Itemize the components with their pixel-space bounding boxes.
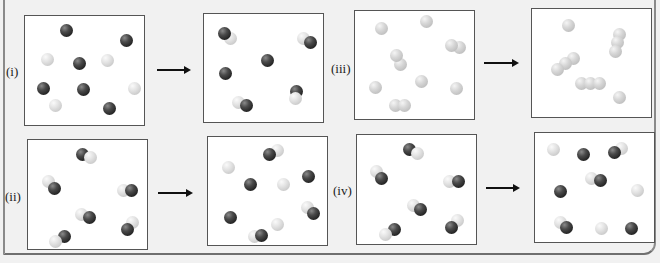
grey-atom — [375, 22, 388, 35]
grey-atom — [613, 91, 626, 104]
dark-atom — [625, 222, 638, 235]
light-atom — [277, 178, 290, 191]
light-atom — [547, 143, 560, 156]
panel-i-before-box — [24, 15, 145, 126]
light-atom — [101, 54, 114, 67]
dark-atom — [244, 178, 257, 191]
panel-iv-before-box — [356, 134, 477, 245]
dark-atom — [414, 203, 427, 216]
panel-iii-after-box — [531, 8, 652, 118]
dark-atom — [445, 221, 458, 234]
reaction-arrow — [484, 62, 517, 64]
dark-atom — [302, 170, 315, 183]
dark-atom — [261, 54, 274, 67]
dark-atom — [240, 99, 253, 112]
dark-atom — [121, 223, 134, 236]
reaction-arrow — [157, 69, 189, 71]
light-atom — [411, 147, 424, 160]
dark-atom — [554, 185, 567, 198]
light-atom — [49, 99, 62, 112]
dark-atom — [73, 57, 86, 70]
dark-atom — [560, 221, 573, 234]
dark-atom — [594, 174, 607, 187]
dark-atom — [224, 211, 237, 224]
light-atom — [41, 53, 54, 66]
panel-ii-after-box — [207, 136, 328, 246]
dark-atom — [608, 146, 621, 159]
light-atom — [289, 92, 302, 105]
panel-label-iv: (iv) — [333, 183, 352, 199]
dark-atom — [307, 207, 320, 220]
grey-atom — [390, 49, 403, 62]
grey-atom — [369, 81, 382, 94]
dark-atom — [577, 148, 590, 161]
dark-atom — [125, 184, 138, 197]
light-atom — [595, 222, 608, 235]
dark-atom — [375, 172, 388, 185]
light-atom — [49, 235, 62, 248]
dark-atom — [48, 182, 61, 195]
dark-atom — [83, 211, 96, 224]
panel-i-after-box — [203, 13, 324, 123]
grey-atom — [450, 82, 463, 95]
panel-ii-before-box — [27, 139, 148, 250]
light-atom — [379, 228, 392, 241]
panel-iv-after-box — [534, 132, 655, 243]
dark-atom — [103, 102, 116, 115]
panel-label-i: (i) — [6, 64, 18, 80]
panel-iii-before-box — [354, 10, 475, 120]
grey-atom — [415, 75, 428, 88]
dark-atom — [452, 175, 465, 188]
grey-atom — [420, 15, 433, 28]
reaction-arrow — [486, 187, 518, 189]
dark-atom — [120, 34, 133, 47]
grey-atom — [562, 19, 575, 32]
dark-atom — [60, 24, 73, 37]
dark-atom — [37, 82, 50, 95]
grey-atom — [593, 77, 606, 90]
light-atom — [222, 161, 235, 174]
dark-atom — [263, 148, 276, 161]
grey-atom — [445, 39, 458, 52]
grey-atom — [551, 63, 564, 76]
dark-atom — [304, 36, 317, 49]
grey-atom — [398, 99, 411, 112]
light-atom — [271, 218, 284, 231]
dark-atom — [219, 67, 232, 80]
panel-label-ii: (ii) — [5, 189, 21, 205]
light-atom — [84, 151, 97, 164]
light-atom — [128, 82, 141, 95]
reaction-arrow — [158, 192, 191, 194]
dark-atom — [255, 229, 268, 242]
light-atom — [631, 184, 644, 197]
dark-atom — [218, 27, 231, 40]
grey-atom — [609, 45, 622, 58]
panel-label-iii: (iii) — [331, 61, 351, 77]
dark-atom — [77, 83, 90, 96]
